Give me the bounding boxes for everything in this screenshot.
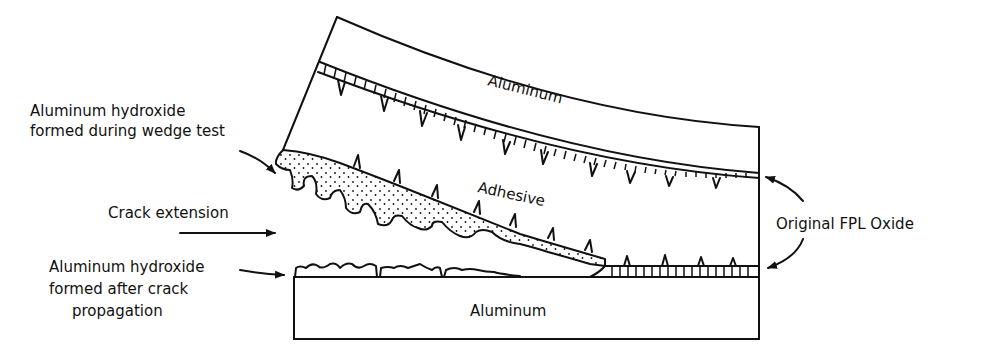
hydroxide-wedge-region — [276, 150, 605, 266]
oxide-arrow-upper — [766, 177, 803, 201]
hydroxide-wedge-label-1: Aluminum hydroxide — [30, 102, 185, 120]
top-oxide-layer — [318, 62, 759, 188]
top-aluminum-label: Aluminum — [486, 71, 564, 107]
hydroxide-wedge-arrow — [240, 151, 275, 173]
hydroxide-wedge-label-2: formed during wedge test — [30, 122, 225, 140]
bottom-oxide-layer — [605, 255, 759, 276]
oxide-arrow-lower — [768, 239, 803, 268]
hydroxide-after-label-1: Aluminum hydroxide — [49, 258, 204, 276]
hydroxide-after-crack — [295, 264, 605, 278]
adhesive-label: Adhesive — [476, 178, 547, 210]
original-oxide-label: Original FPL Oxide — [776, 215, 914, 233]
crack-extension-label: Crack extension — [108, 204, 229, 222]
hydroxide-after-label-3: propagation — [72, 302, 163, 320]
wedge-test-diagram: Aluminum Adhesive Aluminum Aluminum hydr… — [0, 0, 983, 361]
hydroxide-after-label-2: formed after crack — [49, 280, 189, 298]
hydroxide-after-arrow — [240, 270, 284, 275]
bottom-aluminum-label: Aluminum — [470, 302, 546, 320]
